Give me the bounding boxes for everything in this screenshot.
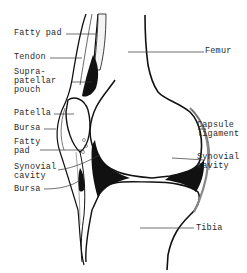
label-synovial-right-2: cavity [197,162,229,171]
femur-outline [145,15,202,178]
patella [66,98,90,152]
label-suprapatellar-3: pouch [14,86,41,95]
label-bursa-top: Bursa [14,124,41,133]
label-tendon: Tendon [14,53,46,62]
label-fatty-pad-low-2: pad [14,147,30,156]
label-tibia: Tibia [196,224,223,233]
tibia-front-outline [86,182,152,262]
label-bursa-low: Bursa [14,185,41,194]
label-patella: Patella [14,109,51,118]
label-fatty-pad-top: Fatty pad [14,29,62,38]
label-synovial-left-2: cavity [14,172,46,181]
knee-anatomy-diagram: Fatty pad Tendon Supra- patellar pouch P… [0,0,247,273]
tibia-outline [152,182,199,270]
label-femur: Femur [205,47,232,56]
label-capsule-2: ligament [197,130,239,139]
suprapatellar-pouch [82,55,98,97]
anterior-synovial-cavity [91,140,130,198]
leader-lines [40,34,206,228]
